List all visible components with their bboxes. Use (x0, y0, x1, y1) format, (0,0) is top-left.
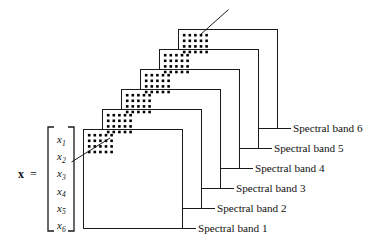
pixel-dot (132, 105, 135, 108)
pixel-dot (162, 80, 165, 83)
pixel-dot (126, 100, 129, 103)
pixel-dot (186, 54, 189, 57)
pixel-dot (164, 54, 167, 57)
pixel-dot (156, 85, 159, 88)
pixel-dot (151, 80, 154, 83)
pixel-dot (194, 51, 197, 54)
pixel-dot (99, 151, 102, 154)
pixel-dot (183, 40, 186, 43)
pixel-dot (181, 71, 184, 74)
pixel-dot (88, 134, 91, 137)
pixel-dot (105, 145, 108, 148)
pixel-dot (110, 151, 113, 154)
pixel-dot (107, 125, 110, 128)
pixel-dot (126, 111, 129, 114)
pixel-dot (194, 34, 197, 37)
pixel-dot (167, 80, 170, 83)
vector-component-3: x3 (56, 167, 66, 182)
band-label-5: Spectral band 5 (274, 142, 344, 154)
band-plane-rect-1 (84, 130, 183, 229)
pixel-dot (124, 125, 127, 128)
pixel-dot (137, 100, 140, 103)
pixel-dot (145, 74, 148, 77)
pixel-dot (124, 131, 127, 134)
pixel-dot (170, 71, 173, 74)
pixel-dot (205, 45, 208, 48)
pixel-dot (151, 85, 154, 88)
pixel-dot (137, 111, 140, 114)
pixel-dot (110, 140, 113, 143)
pixel-dot (143, 100, 146, 103)
pixel-dot (99, 140, 102, 143)
pixel-dot (200, 45, 203, 48)
pixel-dot (183, 45, 186, 48)
pixel-dot (126, 105, 129, 108)
vector-component-1: x1 (56, 133, 66, 148)
pixel-dot (113, 114, 116, 117)
pixel-dot (156, 74, 159, 77)
diagram-canvas: Spectral band 1 Spectral band 2 Spectral… (0, 0, 375, 242)
pixel-dot (167, 74, 170, 77)
pixel-dot (181, 54, 184, 57)
pixel-dot (118, 114, 121, 117)
pixel-dot (113, 131, 116, 134)
pixel-dot (205, 34, 208, 37)
pixel-dot (132, 100, 135, 103)
pixel-dot (162, 91, 165, 94)
pixel-dot (148, 100, 151, 103)
pixel-dot (137, 105, 140, 108)
pixel-dot (186, 65, 189, 68)
vector-equals: = (30, 167, 37, 181)
pixel-dot (170, 60, 173, 63)
pixel-dot (129, 120, 132, 123)
pixel-dot (175, 71, 178, 74)
pixel-dot (88, 145, 91, 148)
matrix-bracket-left (48, 127, 54, 231)
pixel-dot (107, 114, 110, 117)
pixel-dot (200, 40, 203, 43)
pixel-dot (107, 131, 110, 134)
pixel-dot (145, 80, 148, 83)
vector-component-list: x1x2x3x4x5x6 (56, 133, 66, 234)
pixel-dot (148, 111, 151, 114)
pixel-dot (148, 94, 151, 97)
pixel-dot (107, 120, 110, 123)
pixel-dot (189, 45, 192, 48)
pixel-dot (189, 34, 192, 37)
pixel-dot (170, 54, 173, 57)
pixel-dot (151, 91, 154, 94)
pixel-dot (148, 105, 151, 108)
vector-symbol: x (18, 167, 24, 181)
pixel-dot (186, 71, 189, 74)
pixel-dot (143, 111, 146, 114)
pixel-dot (113, 120, 116, 123)
pixel-dot (186, 60, 189, 63)
pixel-dot (94, 134, 97, 137)
pixel-dot (88, 140, 91, 143)
band-label-3: Spectral band 3 (236, 182, 306, 194)
band-label-4: Spectral band 4 (255, 162, 325, 174)
pixel-dot (167, 91, 170, 94)
pixel-dot (205, 51, 208, 54)
pixel-dot (132, 94, 135, 97)
band-label-6: Spectral band 6 (293, 122, 363, 134)
spectral-band-diagram: Spectral band 1 Spectral band 2 Spectral… (0, 0, 375, 242)
pixel-dot (129, 131, 132, 134)
pixel-dot (129, 114, 132, 117)
pixel-dot (99, 145, 102, 148)
pixel-dot (194, 45, 197, 48)
pixel-dot (189, 40, 192, 43)
pixel-dot (175, 60, 178, 63)
pixel-dot (105, 151, 108, 154)
band-plane-1 (84, 130, 183, 229)
pixel-dot (143, 94, 146, 97)
pixel-dot (156, 91, 159, 94)
pixel-dot (145, 85, 148, 88)
pixel-dot (181, 60, 184, 63)
pixel-dot (118, 131, 121, 134)
pixel-dot (162, 74, 165, 77)
pixel-dot (118, 120, 121, 123)
pixel-dot (105, 134, 108, 137)
pixel-dot (200, 51, 203, 54)
pixel-dot (175, 65, 178, 68)
